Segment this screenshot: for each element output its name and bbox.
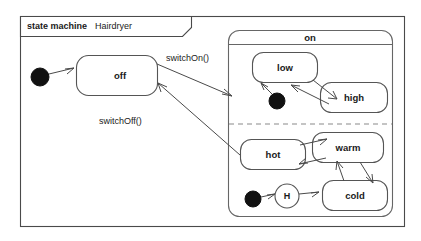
diagram-kind-label: state machine <box>27 21 87 31</box>
initial-pseudostate-history <box>245 191 261 207</box>
state-cold-label: cold <box>345 190 365 201</box>
state-warm-label: warm <box>335 142 361 153</box>
diagram-canvas: state machine Hairdryer on low high hot … <box>0 0 421 241</box>
transition-switchon-label: switchOn() <box>166 53 209 63</box>
state-machine-diagram: state machine Hairdryer on low high hot … <box>0 0 421 241</box>
state-high-label: high <box>344 92 364 103</box>
history-pseudostate-label: H <box>284 191 291 201</box>
state-on-label: on <box>304 32 316 43</box>
initial-pseudostate-low <box>269 93 285 109</box>
diagram-name-label: Hairdryer <box>95 21 132 31</box>
state-off-label: off <box>114 70 127 81</box>
state-low-label: low <box>277 62 293 73</box>
initial-pseudostate-off <box>31 68 49 86</box>
state-hot-label: hot <box>266 149 282 160</box>
transition-switchoff-label: switchOff() <box>99 116 142 126</box>
